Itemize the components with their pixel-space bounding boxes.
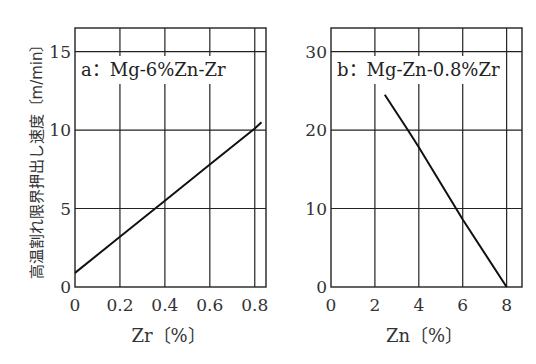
x-tick-label: 0.6 bbox=[196, 295, 223, 315]
x-tick-label: 8 bbox=[501, 295, 512, 315]
chart-title: b：Mg-Zn-0.8%Zr bbox=[337, 59, 500, 80]
chart-a: a：Mg-6%Zn-Zr00.20.40.60.8051015Zr〔%〕 bbox=[49, 28, 268, 346]
y-tick-label: 10 bbox=[49, 120, 71, 140]
series-line bbox=[75, 122, 262, 273]
y-tick-label: 0 bbox=[316, 277, 327, 297]
x-tick-label: 0.2 bbox=[106, 295, 133, 315]
x-tick-label: 0 bbox=[70, 295, 81, 315]
x-tick-label: 2 bbox=[369, 295, 380, 315]
x-axis-label: Zr〔%〕 bbox=[131, 325, 205, 346]
y-tick-label: 0 bbox=[60, 277, 71, 297]
figure: a：Mg-6%Zn-Zr00.20.40.60.8051015Zr〔%〕b：Mg… bbox=[0, 0, 536, 364]
x-tick-label: 6 bbox=[457, 295, 468, 315]
chart-b: b：Mg-Zn-0.8%Zr024680102030Zn〔%〕 bbox=[305, 28, 522, 346]
series-line bbox=[385, 95, 507, 287]
y-axis-label: 高温割れ限界押出し速度〔m/min〕 bbox=[28, 37, 46, 280]
y-tick-label: 15 bbox=[49, 42, 71, 62]
y-tick-label: 30 bbox=[305, 42, 327, 62]
x-tick-label: 0 bbox=[326, 295, 337, 315]
chart-title: a：Mg-6%Zn-Zr bbox=[81, 59, 226, 80]
x-tick-label: 0.4 bbox=[151, 295, 178, 315]
x-tick-label: 0.8 bbox=[241, 295, 268, 315]
y-tick-label: 20 bbox=[305, 120, 327, 140]
y-tick-label: 10 bbox=[305, 199, 327, 219]
x-axis-label: Zn〔%〕 bbox=[386, 325, 463, 346]
x-tick-label: 4 bbox=[413, 295, 424, 315]
y-tick-label: 5 bbox=[60, 199, 71, 219]
